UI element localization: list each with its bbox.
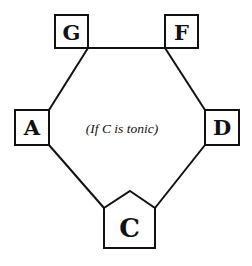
node-g-label: G xyxy=(63,20,81,45)
node-c-label: C xyxy=(119,213,140,243)
diagram-caption: (If C is tonic) xyxy=(86,121,159,136)
edge-f-d xyxy=(165,48,205,110)
node-a: A xyxy=(15,110,49,145)
edge-g-a xyxy=(49,48,88,110)
node-g: G xyxy=(55,15,88,48)
node-f: F xyxy=(165,15,198,48)
edge-d-c xyxy=(155,145,205,208)
node-d-label: D xyxy=(213,115,231,140)
edge-a-c xyxy=(49,145,104,208)
node-a-label: A xyxy=(23,115,41,140)
node-f-label: F xyxy=(174,20,189,45)
key-relationship-diagram: G F A D C (If C is tonic) xyxy=(0,0,252,266)
node-d: D xyxy=(205,110,239,145)
node-c: C xyxy=(104,191,155,248)
